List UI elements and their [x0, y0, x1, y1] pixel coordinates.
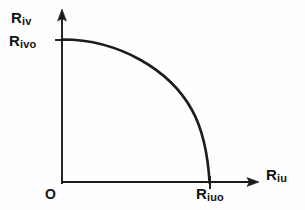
- origin-label-text: O: [45, 186, 56, 202]
- horizontal-axis-label-base: R: [266, 166, 277, 183]
- vertical-intercept-label-sub: ivo: [20, 38, 36, 50]
- vertical-axis-label: Riv: [11, 10, 31, 26]
- vertical-axis-label-sub: iv: [22, 15, 31, 27]
- vertical-axis-label-base: R: [11, 9, 22, 26]
- interaction-curve: [63, 40, 210, 184]
- interaction-diagram: Riv Rivo Riu Riuo O: [0, 0, 305, 210]
- horizontal-axis-label: Riu: [266, 167, 287, 183]
- horizontal-intercept-label-base: R: [196, 185, 207, 202]
- vertical-intercept-label: Rivo: [9, 33, 36, 49]
- horizontal-intercept-label-sub: iuo: [207, 191, 224, 203]
- horizontal-axis-label-sub: iu: [277, 172, 287, 184]
- vertical-intercept-label-base: R: [9, 32, 20, 49]
- diagram-canvas: [0, 0, 305, 210]
- horizontal-intercept-label: Riuo: [196, 186, 224, 202]
- origin-label: O: [45, 186, 56, 202]
